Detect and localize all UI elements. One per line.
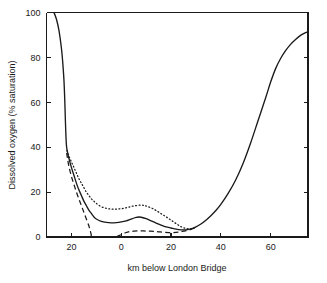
x-axis-ticks: 200204060 [66, 233, 275, 252]
y-tick-label: 0 [35, 232, 40, 242]
x-tick-label: 20 [66, 242, 76, 252]
chart-plot-area: 200204060 020406080100 km below London B… [0, 0, 327, 283]
chart-series-dashed-curve [67, 153, 196, 237]
x-tick-label: 20 [166, 242, 176, 252]
chart-curves [54, 13, 308, 238]
y-tick-label: 80 [30, 53, 40, 63]
x-tick-label: 0 [119, 242, 124, 252]
x-axis-title: km below London Bridge [127, 263, 226, 273]
y-tick-label: 60 [30, 98, 40, 108]
x-tick-label: 40 [216, 242, 226, 252]
x-tick-label: 60 [266, 242, 276, 252]
chart-figure: 200204060 020406080100 km below London B… [0, 0, 327, 283]
y-axis-ticks: 020406080100 [25, 8, 308, 243]
y-tick-label: 20 [30, 187, 40, 197]
chart-series-solid-curve [54, 13, 308, 230]
y-axis-title: Dissolved oxygen (% saturation) [7, 60, 17, 189]
y-tick-label: 100 [25, 8, 40, 18]
y-tick-label: 40 [30, 142, 40, 152]
